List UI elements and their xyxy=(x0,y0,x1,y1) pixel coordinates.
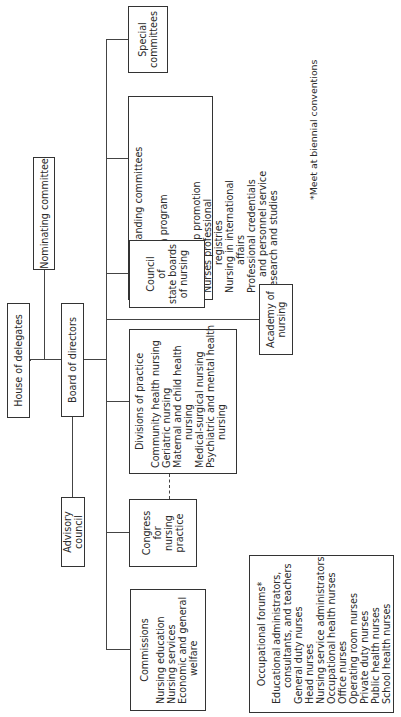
council-label-line: of nursing xyxy=(178,250,189,298)
list-item: Community health nursing xyxy=(150,335,161,468)
connector-house-to-board xyxy=(30,359,61,360)
list-item: Public health nurses xyxy=(370,564,381,704)
list-item: Medical-surgical nursing xyxy=(194,335,205,468)
list-item: nursing xyxy=(183,335,194,468)
board-of-directors-box: Board of directors xyxy=(61,303,84,417)
dashed-link-congress-divisions xyxy=(170,486,171,487)
list-item: consultants, and teachers xyxy=(282,564,293,704)
house-of-delegates-box: House of delegates xyxy=(7,303,30,418)
connector-house-board xyxy=(30,360,31,361)
academy-of-nursing-box: Academy of nursing xyxy=(259,284,293,355)
list-item: Occupational health nurses xyxy=(326,564,337,704)
occupational-forums-box: Occupational forums* Educational adminis… xyxy=(249,555,394,713)
branch-divisions xyxy=(106,401,129,402)
divisions-of-practice-title: Divisions of practice xyxy=(134,335,145,468)
list-item: Educational administrators, xyxy=(271,564,282,704)
list-item: School health nurses xyxy=(381,564,392,704)
board-of-directors-label: Board of directors xyxy=(67,317,78,403)
occupational-forums-title: Occupational forums* xyxy=(256,564,267,704)
congress-label-line: for xyxy=(152,526,163,539)
connector-to-nominating xyxy=(44,270,45,360)
list-item: Professional credentials xyxy=(246,103,257,293)
list-item: and personnel service xyxy=(257,103,268,293)
commissions-box: Commissions Nursing educationNursing ser… xyxy=(130,589,206,711)
list-item: affairs xyxy=(235,103,246,293)
list-item: Research and studies xyxy=(268,103,279,293)
congress-label-line: nursing xyxy=(163,515,174,551)
page: House of delegates Board of directors No… xyxy=(0,0,401,717)
council-label-line: state boards xyxy=(167,244,178,304)
list-item: Private duty nurses xyxy=(359,564,370,704)
congress-label-line: practice xyxy=(174,514,185,553)
list-item: Psychiatric and mental health xyxy=(205,335,216,468)
council-label-line: Council xyxy=(145,256,156,291)
connector-board-to-trunk xyxy=(84,359,106,360)
special-committees-label: committees xyxy=(148,11,159,68)
divisions-of-practice-box: Divisions of practice Community health n… xyxy=(129,329,237,474)
house-of-delegates-label: House of delegates xyxy=(13,314,24,407)
nominating-committee-label: Nominating committee xyxy=(39,158,50,269)
council-label-line: of xyxy=(156,269,167,278)
list-item: Geriatric nursing xyxy=(161,335,172,468)
congress-label-line: Congress xyxy=(141,511,152,555)
org-chart: House of delegates Board of directors No… xyxy=(0,0,401,717)
list-item: Nursing education xyxy=(155,596,166,704)
branch-commissions xyxy=(106,649,130,650)
list-item: Nursing in international xyxy=(224,103,235,293)
list-item: nursing xyxy=(216,335,227,468)
nominating-committee-box: Nominating committee xyxy=(33,157,55,270)
list-item: welfare xyxy=(188,596,199,704)
branch-council xyxy=(106,273,129,274)
list-item: Head nurses xyxy=(304,564,315,704)
divisions-of-practice-list: Community health nursingGeriatric nursin… xyxy=(150,335,227,468)
academy-label-line: nursing xyxy=(276,302,287,338)
footnote: *Meet at biennial conventions xyxy=(308,60,319,200)
council-of-state-boards-box: Council of state boards of nursing xyxy=(129,240,205,308)
branch-congress xyxy=(106,532,129,533)
academy-label-line: Academy of xyxy=(265,291,276,348)
trunk-line xyxy=(106,39,107,650)
list-item: Maternal and child health xyxy=(172,335,183,468)
commissions-list: Nursing educationNursing servicesEconomi… xyxy=(155,596,199,704)
list-item: Operating room nurses xyxy=(348,564,359,704)
list-item: Nursing services xyxy=(166,596,177,704)
connector-board-to-advisory xyxy=(72,417,73,497)
branch-special xyxy=(106,39,128,40)
occupational-forums-list: Educational administrators,consultants, … xyxy=(271,564,392,704)
dashed-link-congress-divisions xyxy=(169,474,170,499)
special-committees-box: Special committees xyxy=(128,6,168,73)
branch-standing xyxy=(106,158,128,159)
list-item: registries xyxy=(213,103,224,293)
branch-academy xyxy=(106,319,259,320)
list-item: Office nurses xyxy=(337,564,348,704)
list-item: Nursing service administrators xyxy=(315,564,326,704)
list-item: General duty nurses xyxy=(293,564,304,704)
advisory-council-box: Advisory council xyxy=(61,497,85,567)
congress-nursing-practice-box: Congress for nursing practice xyxy=(129,499,197,567)
special-committees-label: Special xyxy=(137,22,148,57)
advisory-council-label: Advisory council xyxy=(62,498,84,566)
list-item: Economic and general xyxy=(177,596,188,704)
commissions-title: Commissions xyxy=(139,596,150,704)
